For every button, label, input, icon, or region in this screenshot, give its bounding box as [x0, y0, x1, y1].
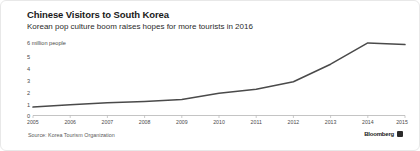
chart-plot-area	[1, 1, 420, 151]
bloomberg-square-logo-icon	[397, 131, 403, 137]
y-tick-label-2: 2	[27, 90, 30, 96]
chart-figure: Chinese Visitors to South Korea Korean p…	[0, 0, 420, 151]
x-tick-label-2011: 2011	[251, 119, 262, 125]
x-tick-label-2008: 2008	[139, 119, 151, 125]
x-tick-label-2015: 2015	[396, 119, 408, 125]
y-tick-label-1: 1	[27, 102, 30, 108]
source-note: Source: Korea Tourism Organization	[28, 132, 115, 138]
x-tick-label-2013: 2013	[325, 119, 337, 125]
y-axis-unit-label: 6 million people	[27, 40, 66, 46]
bloomberg-branding: Bloomberg	[364, 131, 403, 137]
x-tick-label-2014: 2014	[362, 119, 374, 125]
x-tick-label-2009: 2009	[176, 119, 188, 125]
x-tick-label-2010: 2010	[213, 119, 225, 125]
x-tick-label-2005: 2005	[27, 119, 39, 125]
bloomberg-wordmark: Bloomberg	[364, 131, 394, 137]
x-tick-label-2012: 2012	[288, 119, 300, 125]
y-tick-label-3: 3	[27, 78, 30, 84]
y-tick-label-5: 5	[27, 54, 30, 60]
x-tick-label-2007: 2007	[102, 119, 114, 125]
y-tick-label-4: 4	[27, 66, 30, 72]
x-tick-label-2006: 2006	[64, 119, 76, 125]
data-line-chinese-visitors	[33, 43, 405, 107]
